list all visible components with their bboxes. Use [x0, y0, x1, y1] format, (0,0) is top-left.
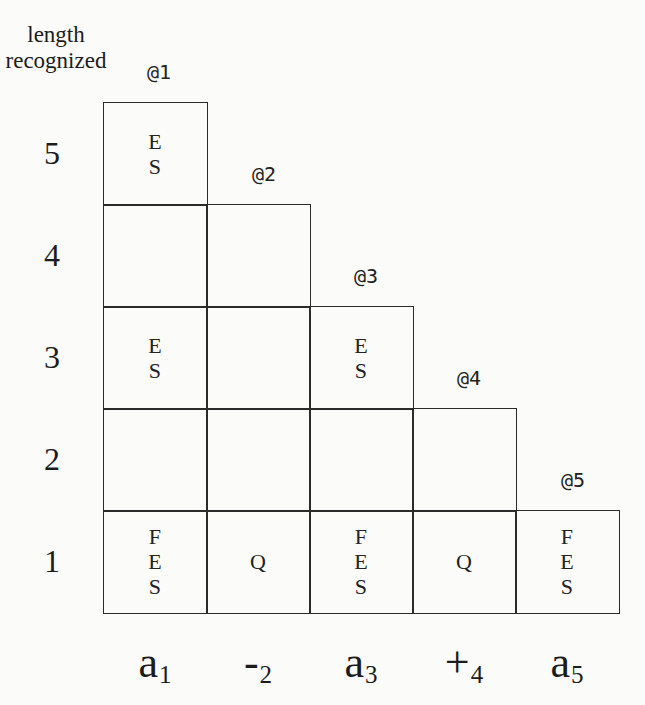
x-label-a5: a5: [515, 635, 619, 690]
x-label-minus2-symbol: -: [244, 637, 259, 688]
x-label-a3-subscript: 3: [365, 661, 378, 689]
marker-at-1: @1: [107, 57, 211, 87]
x-label-plus4-subscript: 4: [471, 661, 484, 689]
cell-len4-pos1: [103, 204, 208, 308]
row-label-length-3: 3: [18, 306, 86, 408]
cell-len5-pos1: E S: [103, 102, 208, 206]
cell-len1-pos2: Q: [206, 510, 311, 614]
cell-len1-pos4: Q: [412, 510, 517, 614]
cell-len1-pos1: F E S: [103, 510, 208, 614]
cell-len5-pos1-content: E S: [148, 129, 162, 179]
x-label-a5-subscript: 5: [571, 661, 584, 689]
x-label-plus4-symbol: +: [445, 637, 470, 688]
cell-len1-pos1-content: F E S: [148, 524, 162, 599]
cell-len4-pos2: [206, 204, 311, 308]
y-axis-title: length recognized: [0, 22, 112, 74]
x-label-minus2: -2: [206, 635, 310, 690]
x-label-a1-symbol: a: [138, 637, 158, 688]
x-label-a1-subscript: 1: [159, 661, 172, 689]
marker-at-2: @2: [212, 159, 316, 189]
cell-len1-pos3: F E S: [309, 510, 414, 614]
marker-at-5: @5: [521, 465, 625, 495]
cell-len3-pos3-content: E S: [354, 333, 368, 383]
row-label-length-1: 1: [18, 510, 86, 612]
cell-len1-pos5-content: F E S: [560, 524, 574, 599]
cell-len3-pos1: E S: [103, 306, 208, 410]
cell-len3-pos1-content: E S: [148, 333, 162, 383]
cell-len1-pos2-content: Q: [250, 549, 266, 574]
y-axis-title-line2: recognized: [0, 48, 112, 74]
x-label-a3: a3: [309, 635, 413, 690]
y-axis-title-line1: length: [0, 22, 112, 48]
cell-len2-pos3: [309, 408, 414, 512]
cell-len3-pos3: E S: [309, 306, 414, 410]
row-label-length-2: 2: [18, 408, 86, 510]
cell-len3-pos2: [206, 306, 311, 410]
x-label-a1: a1: [103, 635, 207, 690]
cell-len1-pos3-content: F E S: [354, 524, 368, 599]
x-label-minus2-subscript: 2: [260, 661, 273, 689]
cell-len1-pos4-content: Q: [456, 549, 472, 574]
cell-len1-pos5: F E S: [515, 510, 620, 614]
x-label-plus4: +4: [412, 635, 516, 690]
x-label-a5-symbol: a: [550, 637, 570, 688]
row-label-length-4: 4: [18, 204, 86, 306]
cell-len2-pos2: [206, 408, 311, 512]
cell-len2-pos4: [412, 408, 517, 512]
marker-at-4: @4: [417, 363, 521, 393]
recognition-chart-figure: length recognized 5 4 3 2 1 @1 @2 @3 @4 …: [0, 0, 645, 705]
cell-len2-pos1: [103, 408, 208, 512]
marker-at-3: @3: [314, 261, 418, 291]
x-label-a3-symbol: a: [344, 637, 364, 688]
row-label-length-5: 5: [18, 102, 86, 204]
